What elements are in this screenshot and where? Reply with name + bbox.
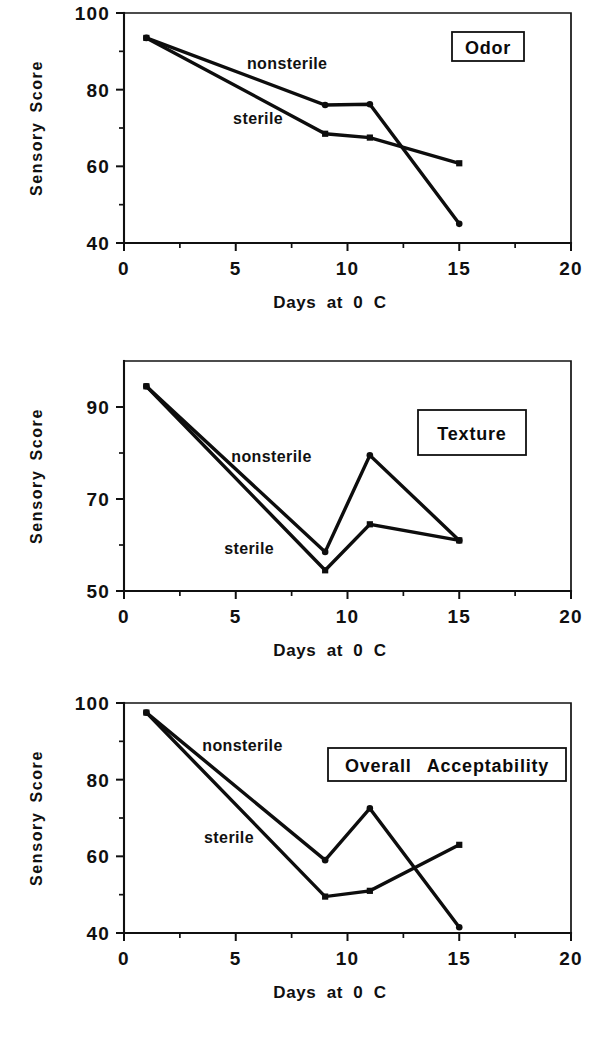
chart-svg-0: 40608010005101520nonsterilesterileOdorDa…	[0, 0, 609, 345]
chart-svg-2: 40608010005101520nonsterilesterileOveral…	[0, 690, 609, 1035]
y-tick-label: 50	[86, 581, 110, 602]
x-tick-label: 15	[447, 948, 471, 969]
chart-panel-odor: 40608010005101520nonsterilesterileOdorDa…	[0, 0, 609, 345]
x-axis-title: Days at 0 C	[273, 641, 386, 660]
y-axis-title: Sensory Score	[28, 750, 45, 886]
x-axis-title: Days at 0 C	[273, 983, 386, 1002]
y-axis-title: Sensory Score	[28, 408, 45, 544]
x-tick-label: 15	[447, 606, 471, 627]
series-annotation-sterile: sterile	[224, 540, 274, 557]
x-tick-label: 20	[559, 258, 583, 279]
y-axis: 507090	[86, 397, 124, 602]
y-tick-label: 60	[86, 846, 110, 867]
x-tick-label: 10	[336, 948, 360, 969]
x-tick-label: 20	[559, 606, 583, 627]
y-tick-label: 100	[75, 693, 110, 714]
x-tick-label: 10	[336, 606, 360, 627]
y-axis-title: Sensory Score	[28, 60, 45, 196]
plot-frame	[124, 361, 571, 591]
x-axis: 05101520	[118, 591, 583, 627]
y-axis: 406080100	[75, 693, 124, 944]
x-axis: 05101520	[118, 933, 583, 969]
series-annotation-nonsterile: nonsterile	[202, 737, 282, 754]
x-tick-label: 20	[559, 948, 583, 969]
x-tick-label: 10	[336, 258, 360, 279]
y-tick-label: 80	[86, 80, 110, 101]
panel-title-text: Texture	[437, 424, 506, 444]
series-nonsterile	[143, 709, 463, 930]
y-tick-label: 40	[86, 233, 110, 254]
chart-svg-1: 50709005101520nonsterilesterileTextureDa…	[0, 348, 609, 693]
series-annotation-nonsterile: nonsterile	[231, 448, 311, 465]
series-nonsterile	[143, 383, 463, 555]
panel-title-text: Overall Acceptability	[345, 756, 549, 776]
x-tick-label: 5	[230, 258, 242, 279]
y-tick-label: 80	[86, 770, 110, 791]
x-axis: 05101520	[118, 243, 583, 279]
panel-title-box: Texture	[418, 410, 526, 455]
x-tick-label: 5	[230, 948, 242, 969]
panel-title-text: Odor	[465, 38, 511, 58]
series-annotation-sterile: sterile	[204, 829, 254, 846]
y-tick-label: 60	[86, 156, 110, 177]
series-sterile	[143, 383, 462, 573]
chart-panel-texture: 50709005101520nonsterilesterileTextureDa…	[0, 348, 609, 693]
series-annotation-sterile: sterile	[233, 110, 283, 127]
x-tick-label: 15	[447, 258, 471, 279]
x-tick-label: 5	[230, 606, 242, 627]
plot-frame	[124, 703, 571, 933]
y-tick-label: 90	[86, 397, 110, 418]
chart-panel-overall-acceptability: 40608010005101520nonsterilesterileOveral…	[0, 690, 609, 1035]
panel-title-box: Odor	[452, 32, 524, 61]
x-tick-label: 0	[118, 948, 130, 969]
series-annotation-nonsterile: nonsterile	[247, 55, 327, 72]
panel-title-box: Overall Acceptability	[328, 748, 566, 781]
series-sterile	[143, 709, 462, 899]
x-tick-label: 0	[118, 258, 130, 279]
sensory-score-figure: 40608010005101520nonsterilesterileOdorDa…	[0, 0, 609, 1051]
x-axis-title: Days at 0 C	[273, 293, 386, 312]
y-axis: 406080100	[75, 3, 124, 254]
y-tick-label: 40	[86, 923, 110, 944]
y-tick-label: 100	[75, 3, 110, 24]
y-tick-label: 70	[86, 489, 110, 510]
x-tick-label: 0	[118, 606, 130, 627]
